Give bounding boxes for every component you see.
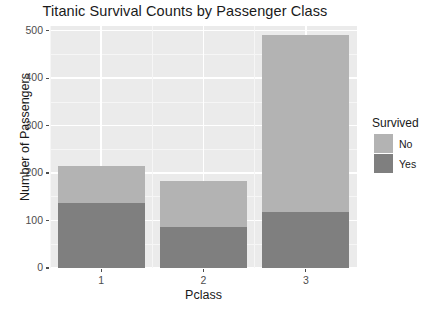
x-tick-label: 3 (281, 274, 331, 286)
legend-swatch-no (374, 134, 393, 153)
x-tick-mark (101, 269, 102, 272)
x-axis-title: Pclass (50, 288, 357, 302)
y-tick-label: 0 (37, 261, 43, 273)
gridline-vertical-minor (152, 26, 153, 268)
y-tick-mark (46, 267, 49, 268)
x-tick-label: 2 (179, 274, 229, 286)
y-tick-mark (46, 30, 49, 31)
bar-segment (58, 166, 145, 204)
y-tick-mark (46, 78, 49, 79)
gridline-vertical-minor (254, 26, 255, 268)
y-tick-mark (46, 220, 49, 221)
legend-swatch-yes (374, 154, 393, 173)
chart-title: Titanic Survival Counts by Passenger Cla… (0, 3, 370, 19)
x-tick-mark (203, 269, 204, 272)
plot-panel (50, 26, 357, 268)
chart-container: Titanic Survival Counts by Passenger Cla… (0, 0, 437, 316)
bar-segment (58, 203, 145, 268)
legend-label-yes: Yes (399, 158, 416, 170)
legend-title: Survived (372, 116, 419, 130)
y-tick-mark (46, 125, 49, 126)
y-tick-label: 500 (25, 24, 43, 36)
x-tick-mark (305, 269, 306, 272)
bar-segment (262, 35, 349, 212)
legend-label-no: No (399, 138, 412, 150)
bar-segment (160, 227, 247, 268)
bar-segment (262, 212, 349, 268)
y-axis-title: Number of Passengers (18, 37, 32, 237)
bar-segment (160, 181, 247, 227)
y-tick-mark (46, 172, 49, 173)
x-tick-label: 1 (76, 274, 126, 286)
